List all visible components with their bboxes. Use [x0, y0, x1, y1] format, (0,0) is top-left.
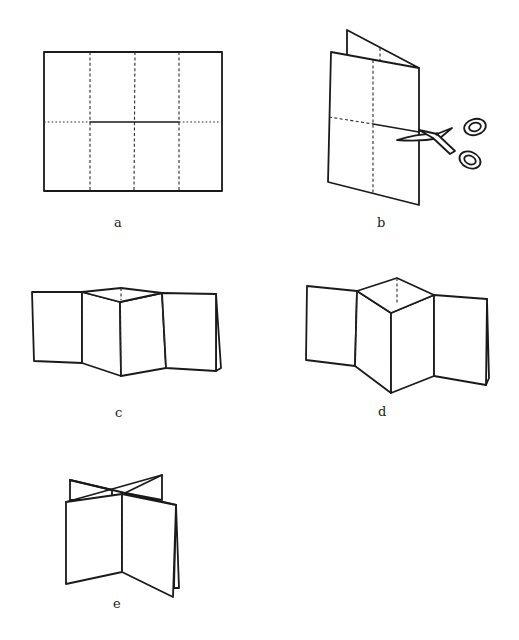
figure-a-flat-sheet — [44, 52, 222, 191]
figure-b-folded-cut — [328, 30, 488, 205]
figure-e-star-book — [66, 475, 179, 597]
figure-label-a: a — [114, 215, 122, 230]
figure-d-zigzag-open — [306, 278, 489, 393]
figure-c-zigzag — [32, 288, 221, 376]
figure-label-b: b — [377, 215, 385, 230]
folding-diagram — [0, 0, 519, 640]
figure-label-e: e — [113, 596, 121, 611]
figure-label-d: d — [378, 404, 386, 419]
figure-label-c: c — [115, 405, 122, 420]
